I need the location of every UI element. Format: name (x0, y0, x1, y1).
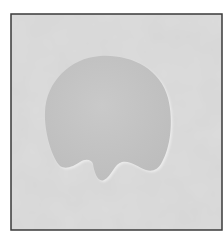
photo (0, 0, 224, 233)
blob-shape (45, 56, 171, 181)
